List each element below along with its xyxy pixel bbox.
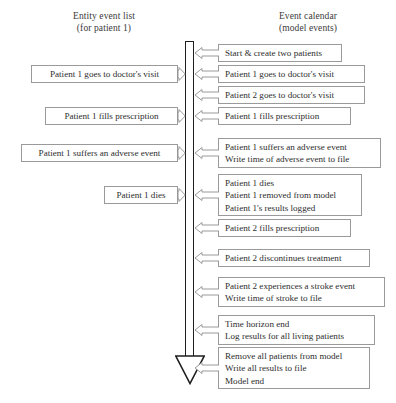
- right-heading-line2: (model events): [238, 22, 378, 34]
- calendar-event-box-4: Patient 1 suffers an adverse eventWrite …: [218, 138, 381, 168]
- right-heading-line1: Event calendar: [238, 10, 378, 22]
- calendar-event-box-6: Patient 2 fills prescription: [218, 219, 351, 237]
- simulation-time-arrow-shaft: [185, 41, 194, 357]
- calendar-event-box-9-line-0: Time horizon end: [225, 318, 368, 330]
- calendar-event-box-3-line-0: Patient 1 fills prescription: [225, 110, 344, 122]
- left-column-heading: Entity event list (for patient 1): [34, 10, 174, 34]
- calendar-event-box-7: Patient 2 discontinues treatment: [218, 249, 370, 267]
- calendar-event-box-9-line-1: Log results for all living patients: [225, 330, 368, 342]
- entity-event-box-0-line-0: Patient 1 goes to doctor's visit: [38, 68, 171, 80]
- calendar-event-box-2: Patient 2 goes to doctor's visit: [218, 86, 365, 104]
- connector-calendar-to-timeline-9: [194, 321, 219, 339]
- connector-calendar-to-timeline-8: [194, 283, 219, 301]
- calendar-event-box-8-line-1: Write time of stroke to file: [225, 292, 378, 304]
- simulation-time-arrowhead-icon: [175, 354, 205, 385]
- calendar-event-box-1-line-0: Patient 1 goes to doctor's visit: [225, 68, 358, 80]
- calendar-event-box-0-line-0: Start & create two patients: [225, 47, 335, 59]
- calendar-event-box-1: Patient 1 goes to doctor's visit: [218, 65, 365, 83]
- entity-event-box-3: Patient 1 dies: [104, 186, 178, 204]
- connector-calendar-to-timeline-2: [194, 86, 219, 104]
- connector-calendar-to-timeline-3: [194, 107, 219, 125]
- event-calendar-diagram: Entity event list (for patient 1) Event …: [0, 0, 396, 403]
- connector-calendar-to-timeline-6: [194, 219, 219, 237]
- calendar-event-box-3: Patient 1 fills prescription: [218, 107, 351, 125]
- calendar-event-box-5: Patient 1 diesPatient 1 removed from mod…: [218, 174, 362, 216]
- calendar-event-box-6-line-0: Patient 2 fills prescription: [225, 222, 344, 234]
- entity-event-box-0: Patient 1 goes to doctor's visit: [31, 65, 178, 83]
- calendar-event-box-10-line-1: Write all results to file: [225, 362, 363, 374]
- calendar-event-box-5-line-0: Patient 1 dies: [225, 177, 355, 189]
- left-heading-line2: (for patient 1): [34, 22, 174, 34]
- connector-calendar-to-timeline-7: [194, 249, 219, 267]
- calendar-event-box-10-line-0: Remove all patients from model: [225, 350, 363, 362]
- calendar-event-box-0: Start & create two patients: [218, 44, 342, 62]
- calendar-event-box-10-line-2: Model end: [225, 375, 363, 387]
- left-heading-line1: Entity event list: [34, 10, 174, 22]
- connector-calendar-to-timeline-5: [194, 186, 219, 204]
- entity-event-box-2-line-0: Patient 1 suffers an adverse event: [28, 147, 171, 159]
- calendar-event-box-10: Remove all patients from modelWrite all …: [218, 347, 370, 389]
- calendar-event-box-4-line-0: Patient 1 suffers an adverse event: [225, 141, 374, 153]
- connector-calendar-to-timeline-1: [194, 65, 219, 83]
- connector-calendar-to-timeline-0: [194, 44, 219, 62]
- connector-calendar-to-timeline-4: [194, 144, 219, 162]
- calendar-event-box-4-line-1: Write time of adverse event to file: [225, 153, 374, 165]
- right-column-heading: Event calendar (model events): [238, 10, 378, 34]
- entity-event-box-2: Patient 1 suffers an adverse event: [21, 144, 178, 162]
- calendar-event-box-5-line-1: Patient 1 removed from model: [225, 189, 355, 201]
- entity-event-box-1: Patient 1 fills prescription: [45, 107, 178, 125]
- entity-event-box-3-line-0: Patient 1 dies: [111, 189, 171, 201]
- calendar-event-box-8-line-0: Patient 2 experiences a stroke event: [225, 280, 378, 292]
- calendar-event-box-9: Time horizon endLog results for all livi…: [218, 315, 375, 345]
- calendar-event-box-8: Patient 2 experiences a stroke eventWrit…: [218, 277, 385, 307]
- calendar-event-box-5-line-2: Patient 1's results logged: [225, 202, 355, 214]
- calendar-event-box-2-line-0: Patient 2 goes to doctor's visit: [225, 89, 358, 101]
- entity-event-box-1-line-0: Patient 1 fills prescription: [52, 110, 171, 122]
- calendar-event-box-7-line-0: Patient 2 discontinues treatment: [225, 252, 363, 264]
